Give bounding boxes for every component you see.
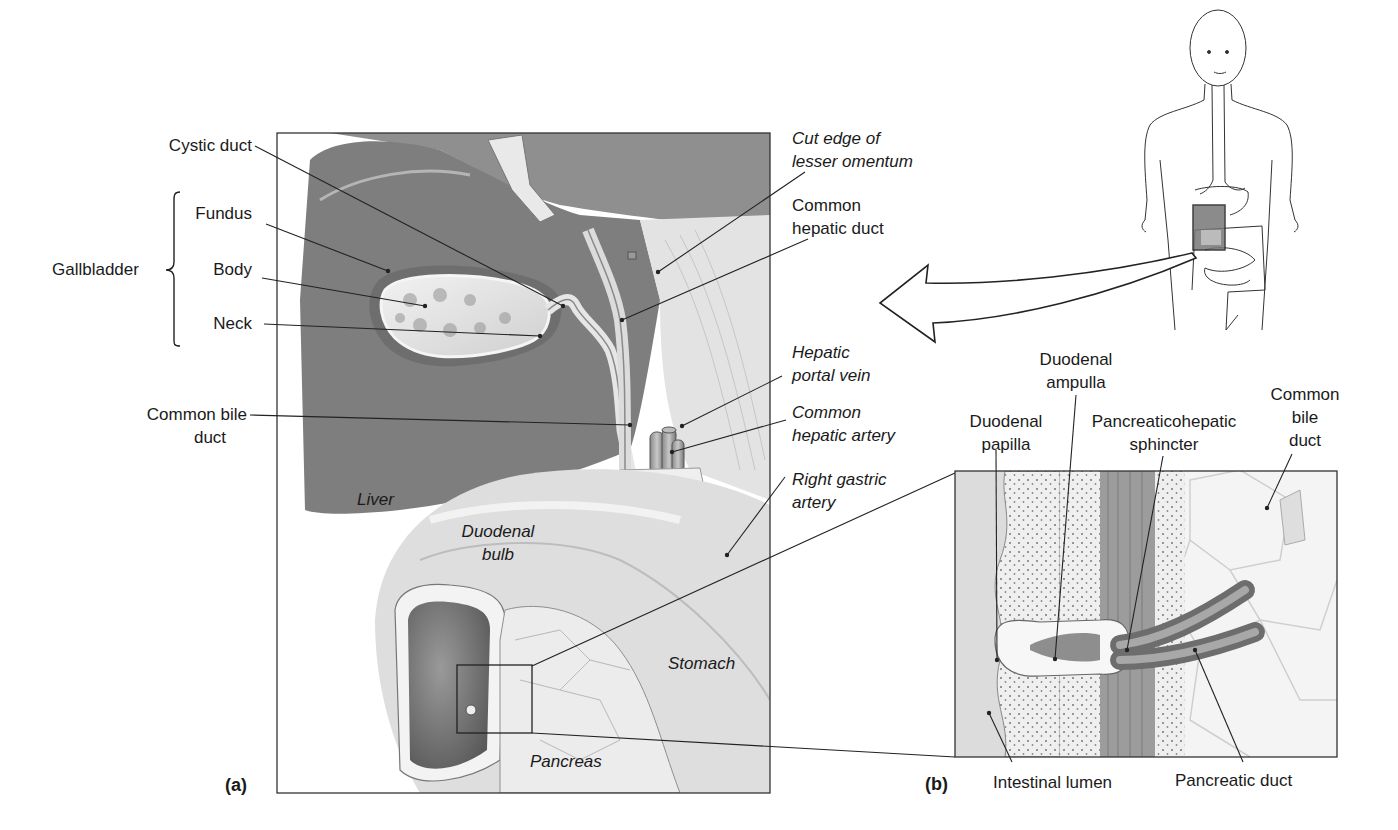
label-liver: Liver bbox=[357, 490, 394, 510]
label-common-hepatic-duct-line2: hepatic duct bbox=[792, 219, 884, 239]
panel-a-artwork bbox=[277, 133, 770, 793]
label-body: Body bbox=[180, 260, 252, 280]
label-common-bile-duct-b: Common bbox=[1265, 385, 1345, 405]
label-intestinal-lumen: Intestinal lumen bbox=[993, 773, 1112, 793]
label-stomach: Stomach bbox=[668, 654, 735, 674]
body-orientation-figure bbox=[1142, 10, 1298, 330]
label-hepatic-portal-vein: Hepatic bbox=[792, 343, 850, 363]
label-common-bile-duct-b-line3: duct bbox=[1265, 431, 1345, 451]
label-cut-edge-lesser-omentum: Cut edge of bbox=[792, 129, 880, 149]
label-common-hepatic-artery-line2: hepatic artery bbox=[792, 426, 895, 446]
label-pancreaticohepatic-sphincter: Pancreaticohepatic bbox=[1075, 412, 1253, 432]
orientation-arrow bbox=[880, 253, 1196, 342]
label-pancreaticohepatic-sphincter-line2: sphincter bbox=[1075, 435, 1253, 455]
panel-a-tag: (a) bbox=[225, 775, 247, 796]
label-common-bile-duct-b-line2: bile bbox=[1265, 408, 1345, 428]
panel-b-artwork bbox=[955, 470, 1337, 757]
label-common-hepatic-artery: Common bbox=[792, 403, 861, 423]
label-right-gastric-artery-line2: artery bbox=[792, 493, 835, 513]
label-neck: Neck bbox=[180, 314, 252, 334]
label-fundus: Fundus bbox=[180, 204, 252, 224]
gallbladder-brace bbox=[166, 192, 180, 346]
label-hepatic-portal-vein-line2: portal vein bbox=[792, 366, 870, 386]
label-duodenal-papilla: Duodenal bbox=[950, 412, 1062, 432]
label-duodenal-bulb-line2: bulb bbox=[448, 545, 548, 565]
label-duodenal-ampulla: Duodenal bbox=[1020, 350, 1132, 370]
label-pancreatic-duct: Pancreatic duct bbox=[1175, 771, 1292, 791]
label-duodenal-papilla-line2: papilla bbox=[950, 435, 1062, 455]
label-cystic-duct: Cystic duct bbox=[110, 136, 252, 156]
label-right-gastric-artery: Right gastric bbox=[792, 470, 886, 490]
panel-b-tag: (b) bbox=[925, 774, 948, 795]
label-duodenal-ampulla-line2: ampulla bbox=[1020, 373, 1132, 393]
label-common-bile-duct-a: Common bile bbox=[110, 405, 247, 425]
label-cut-edge-lesser-omentum-line2: lesser omentum bbox=[792, 152, 913, 172]
label-common-hepatic-duct: Common bbox=[792, 196, 861, 216]
label-gallbladder: Gallbladder bbox=[52, 260, 139, 280]
label-pancreas: Pancreas bbox=[530, 752, 602, 772]
label-common-bile-duct-a-line2: duct bbox=[170, 428, 250, 448]
label-duodenal-bulb: Duodenal bbox=[448, 522, 548, 542]
